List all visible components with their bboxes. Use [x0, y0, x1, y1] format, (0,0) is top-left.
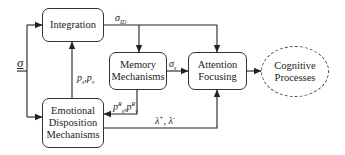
- sigma-s-label: σs: [169, 59, 176, 69]
- sigma-symbol: σ: [17, 55, 23, 70]
- input-sigma-label: σ: [17, 58, 23, 68]
- diagram-canvas: Integration Memory Mechanisms Attention …: [0, 0, 345, 155]
- lambda-label: λ+, λ-: [155, 116, 175, 126]
- memory-mechanisms-node: Memory Mechanisms: [109, 52, 167, 90]
- emotional-disposition-node: Emotional Disposition Mechanisms: [42, 98, 104, 148]
- sigma-id-label: σID: [115, 13, 126, 23]
- lambda-minus: -: [173, 115, 175, 121]
- sigma-s-subscript: s: [174, 65, 176, 71]
- p-subscript-v: v: [135, 108, 138, 114]
- attention-focusing-node: Attention Focusing: [188, 52, 247, 90]
- integration-node: Integration: [42, 8, 104, 42]
- p-superscript-r: R: [132, 101, 136, 107]
- p-r-label: pRs,pRv: [113, 102, 138, 112]
- p-subscript-v: v: [92, 79, 95, 85]
- p-superscript-r: R: [118, 101, 122, 107]
- p-feedback-label: ps,pv: [77, 73, 95, 83]
- sigma-id-subscript: ID: [120, 19, 126, 25]
- cognitive-processes-node: Cognitive Processes: [261, 46, 329, 97]
